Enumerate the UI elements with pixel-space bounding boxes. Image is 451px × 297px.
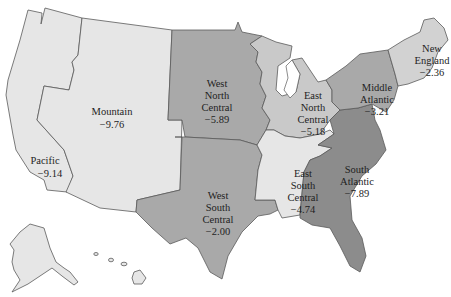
label-wnc-line2: North [205,90,230,101]
label-enc-line3: Central [298,114,329,125]
label-ma-line2: Atlantic [360,94,394,105]
label-wsc-value: −2.00 [206,226,230,237]
region-hawaii-oahu [109,258,114,262]
label-wnc-value: −5.89 [205,114,229,125]
label-wnc-line1: West [207,78,228,89]
region-hawaii-kauai [94,253,98,256]
region-alaska [10,224,78,292]
label-ne-value: −2.36 [420,67,444,78]
label-sa-value: −7.89 [345,188,369,199]
label-esc-value: −4.74 [291,204,316,215]
label-enc-line1: East [304,90,322,101]
label-pacific-value: −9.14 [38,168,63,179]
label-pacific-name: Pacific [30,155,59,166]
label-mountain-value: −9.76 [100,119,124,130]
label-sa-line2: Atlantic [340,176,374,187]
label-ma-value: −3.21 [365,106,389,117]
label-wsc-line1: West [208,190,229,201]
label-wsc-line3: Central [203,214,234,225]
label-ne-line2: England [415,55,451,66]
region-hawaii-big-island [132,270,146,284]
label-wsc-line2: South [206,202,231,213]
label-mountain-name: Mountain [92,106,134,117]
label-esc-line1: East [294,168,312,179]
label-esc-line3: Central [288,192,319,203]
label-esc-line2: South [291,180,316,191]
label-south-atlantic: South Atlantic −7.89 [340,164,374,199]
label-enc-value: −5.18 [301,126,325,137]
label-middle-atlantic: Middle Atlantic −3.21 [360,82,394,117]
label-ma-line1: Middle [362,82,393,93]
label-wnc-line3: Central [202,102,233,113]
label-enc-line2: North [301,102,326,113]
region-hawaii-maui [121,262,127,266]
label-ne-line1: New [422,43,442,54]
us-census-division-map: Pacific −9.14 Mountain −9.76 West North … [0,0,451,297]
label-sa-line1: South [345,164,370,175]
